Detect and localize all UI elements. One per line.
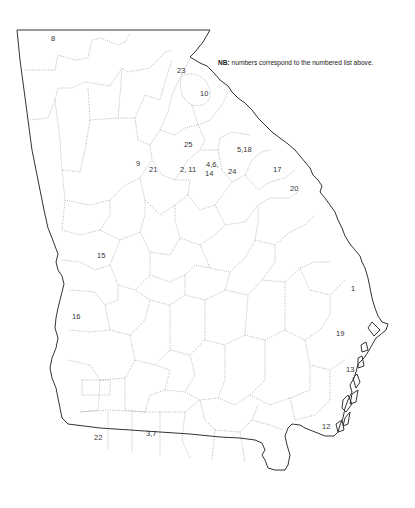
note-text: numbers correspond to the numbered list … [230,59,374,66]
county-label-21: 21 [149,166,157,174]
county-borders [25,33,345,462]
coastal-islands [336,322,380,432]
georgia-county-map [0,0,415,508]
county-label-9: 9 [136,160,140,168]
county-label-20: 20 [290,185,298,193]
county-label-25: 25 [184,141,192,149]
county-label-5-18: 5,18 [237,146,252,154]
county-label-15: 15 [97,252,105,260]
county-label-13: 13 [346,366,354,374]
county-label-19: 19 [336,330,344,338]
county-label-3-7: 3,7 [146,430,156,438]
county-label-23: 23 [177,67,185,75]
county-label-24: 24 [228,168,236,176]
county-label-1: 1 [351,285,355,293]
county-label-2-11: 2, 11 [180,166,196,174]
county-label-22: 22 [94,434,102,442]
county-label-12: 12 [322,423,330,431]
county-label-4-6-14-a: 4,6, [206,161,219,169]
note-bold: NB: [218,59,230,66]
county-label-17: 17 [273,166,281,174]
map-note: NB: numbers correspond to the numbered l… [218,59,373,66]
county-label-8: 8 [51,35,55,43]
county-label-4-6-14-b: 14 [205,170,213,178]
county-label-10: 10 [200,90,208,98]
county-label-16: 16 [72,313,80,321]
